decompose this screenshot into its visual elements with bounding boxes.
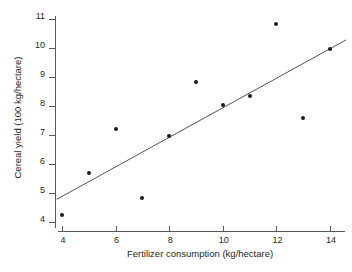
data-point <box>248 94 252 98</box>
data-point <box>87 171 91 175</box>
data-point <box>328 47 332 51</box>
data-point <box>274 22 278 26</box>
data-point <box>140 196 144 200</box>
x-axis-title: Fertilizer consumption (kg/hectare) <box>55 248 345 259</box>
data-point <box>114 127 118 131</box>
scatter-points <box>0 0 352 272</box>
data-point <box>167 134 171 138</box>
chart-figure: 4567891011 468101214 Fertilizer consumpt… <box>0 0 352 272</box>
data-point <box>60 213 64 217</box>
data-point <box>301 116 305 120</box>
y-axis-title: Cereal yield (100 kg/hectare) <box>12 18 23 218</box>
data-point <box>194 80 198 84</box>
data-point <box>221 103 225 107</box>
